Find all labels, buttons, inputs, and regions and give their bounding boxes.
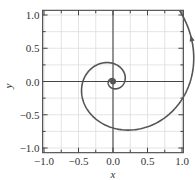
y-tick-labels: 1.00.50.0−0.5−1.0 — [20, 9, 40, 154]
y-tick-label: −1.0 — [20, 142, 40, 154]
y-tick-label: 1.0 — [26, 9, 40, 21]
spiral-curve — [82, 11, 194, 130]
y-tick-label: −0.5 — [20, 109, 40, 121]
x-tick-labels: −1.0−0.50.00.51.0 — [34, 155, 189, 167]
x-axis-label: x — [110, 168, 116, 180]
x-tick-label: 0.5 — [141, 155, 155, 167]
y-tick-label: 0.0 — [26, 76, 40, 88]
x-tick-label: 1.0 — [175, 155, 189, 167]
x-tick-label: −1.0 — [34, 155, 54, 167]
y-axis-label: y — [2, 83, 14, 89]
y-tick-label: 0.5 — [26, 42, 40, 54]
spiral-chart: −1.0−0.50.00.51.0 1.00.50.0−0.5−1.0 x y — [0, 0, 195, 180]
x-tick-label: 0.0 — [106, 155, 120, 167]
origin-point — [110, 79, 116, 85]
x-tick-label: −0.5 — [69, 155, 89, 167]
